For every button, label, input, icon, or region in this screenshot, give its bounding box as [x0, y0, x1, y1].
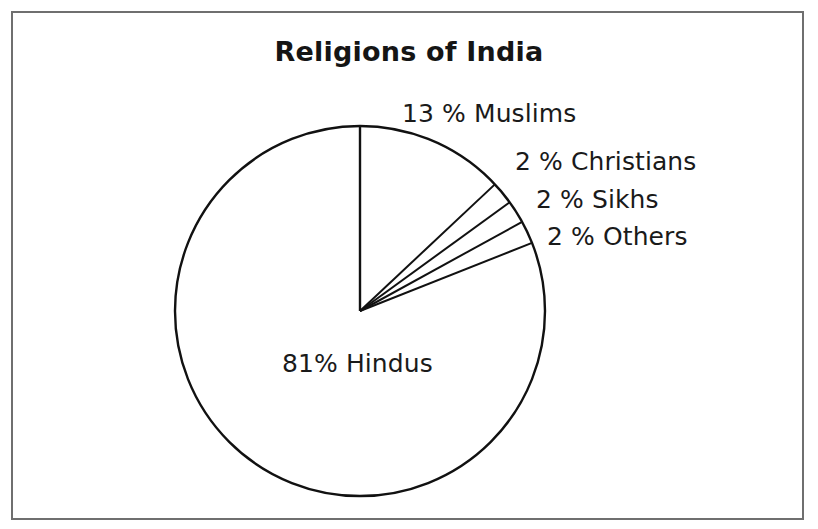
slice-label-muslims: 13 % Muslims [402, 99, 576, 128]
pie-slice-boundaries [360, 126, 532, 311]
slice-label-christians: 2 % Christians [515, 147, 696, 176]
slice-label-sikhs: 2 % Sikhs [536, 185, 659, 214]
slice-boundary-others-hindus [360, 243, 532, 311]
slice-boundary-christians-sikhs [360, 202, 510, 311]
slice-label-hindus: 81% Hindus [282, 349, 433, 378]
slice-label-others: 2 % Others [547, 222, 688, 251]
chart-page: Religions of India 13 % Muslims 2 % Chri… [0, 0, 818, 529]
pie-chart [0, 0, 818, 529]
